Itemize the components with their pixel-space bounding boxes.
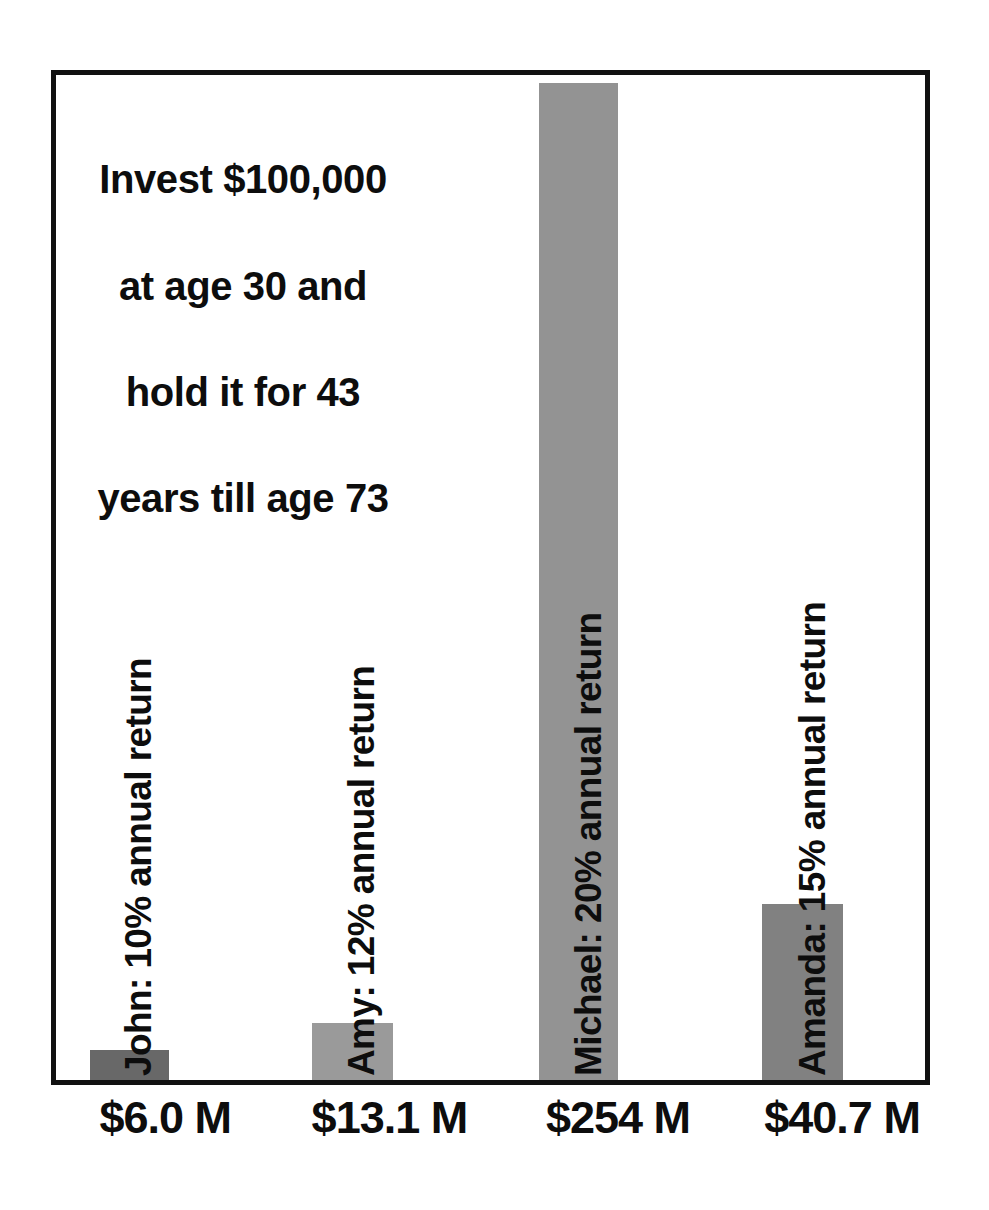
chart-title-line-3: hold it for 43 <box>68 366 418 419</box>
chart-title-line-2: at age 30 and <box>68 260 418 313</box>
series-label-amy: Amy: 12% annual return <box>341 666 383 1076</box>
value-label-amanda: $40.7 M <box>764 1092 920 1144</box>
value-label-john: $6.0 M <box>99 1092 231 1144</box>
value-label-amy: $13.1 M <box>312 1092 468 1144</box>
chart-title: Invest $100,000 at age 30 and hold it fo… <box>68 100 418 579</box>
plot-area: Invest $100,000 at age 30 and hold it fo… <box>56 75 925 1080</box>
value-label-row: $6.0 M $13.1 M $254 M $40.7 M <box>51 1092 930 1162</box>
chart-title-line-4: years till age 73 <box>68 472 418 525</box>
series-label-michael: Michael: 20% annual return <box>568 613 610 1076</box>
value-label-michael: $254 M <box>546 1092 690 1144</box>
plot-frame: Invest $100,000 at age 30 and hold it fo… <box>51 70 930 1085</box>
bar-chart-figure: Invest $100,000 at age 30 and hold it fo… <box>0 0 989 1210</box>
chart-title-line-1: Invest $100,000 <box>68 153 418 206</box>
series-label-john: John: 10% annual return <box>118 658 160 1076</box>
series-label-amanda: Amanda: 15% annual return <box>792 602 834 1076</box>
